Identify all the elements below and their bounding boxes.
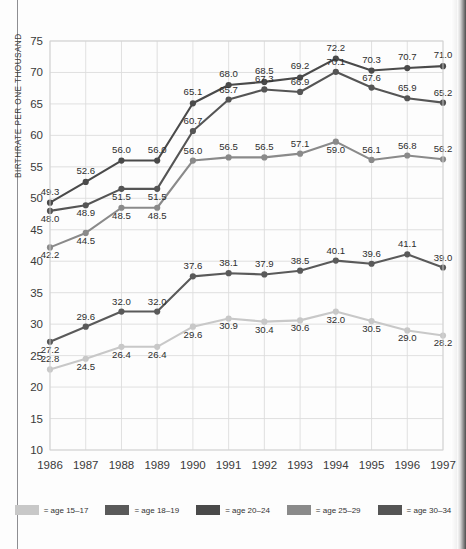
- data-point-label: 24.5: [76, 361, 95, 372]
- data-point: [226, 270, 232, 276]
- legend-item: = age 18–19: [105, 505, 179, 515]
- data-point-label: 48.5: [148, 210, 167, 221]
- data-point-label: 56.5: [219, 141, 238, 152]
- legend-item: = age 15–17: [15, 505, 89, 515]
- data-point-label: 59.0: [326, 144, 345, 155]
- data-point-label: 67.6: [362, 72, 381, 83]
- data-point-label: 48.9: [76, 207, 95, 218]
- data-point-label: 41.1: [398, 238, 417, 249]
- series-line: [50, 312, 443, 370]
- data-point-label: 70.3: [362, 54, 381, 65]
- data-point: [190, 100, 196, 106]
- data-point-label: 48.5: [112, 210, 131, 221]
- data-point-label: 30.9: [219, 320, 238, 331]
- y-axis-tick-label: 60: [30, 129, 43, 141]
- data-point: [261, 86, 267, 92]
- x-axis-tick-label: 1997: [430, 459, 456, 471]
- data-point-label: 38.5: [291, 255, 310, 266]
- data-point-label: 66.9: [291, 76, 310, 87]
- data-point: [297, 151, 303, 157]
- y-axis-tick-label: 75: [30, 35, 43, 47]
- data-point-label: 65.9: [398, 82, 417, 93]
- data-point: [261, 154, 267, 160]
- legend-item: = age 20–24: [196, 505, 270, 515]
- plot-frame: [50, 41, 443, 450]
- data-point: [404, 251, 410, 257]
- data-point-label: 38.1: [219, 257, 238, 268]
- legend-swatch: [378, 505, 402, 515]
- y-axis-tick-label: 45: [30, 224, 43, 236]
- data-point: [297, 268, 303, 274]
- y-axis-tick-label: 35: [30, 287, 43, 299]
- y-axis-tick-label: 10: [30, 444, 43, 456]
- data-point: [83, 179, 89, 185]
- data-point-label: 51.5: [112, 191, 131, 202]
- data-point: [190, 157, 196, 163]
- data-point-label: 29.6: [184, 329, 203, 340]
- data-point: [333, 69, 339, 75]
- data-point: [154, 308, 160, 314]
- data-point: [333, 258, 339, 264]
- data-point-label: 56.5: [255, 141, 274, 152]
- legend-label: = age 15–17: [44, 506, 89, 515]
- legend-swatch: [15, 505, 39, 515]
- data-point-label: 44.5: [76, 235, 95, 246]
- data-point-label: 69.2: [291, 60, 310, 71]
- legend-swatch: [287, 505, 311, 515]
- y-axis-tick-label: 65: [30, 98, 43, 110]
- x-axis-tick-label: 1987: [73, 459, 99, 471]
- series-line: [50, 59, 443, 203]
- data-point: [404, 95, 410, 101]
- data-point-label: 51.5: [148, 191, 167, 202]
- chart-svg: 1015202530354045505560657075198619871988…: [0, 0, 466, 549]
- data-point-label: 57.1: [291, 138, 310, 149]
- data-point-label: 52.6: [76, 165, 95, 176]
- data-point: [226, 96, 232, 102]
- x-axis-tick-label: 1986: [37, 459, 63, 471]
- data-point: [226, 154, 232, 160]
- data-point-label: 70.7: [398, 51, 417, 62]
- data-point-label: 39.6: [362, 248, 381, 259]
- data-point: [404, 65, 410, 71]
- legend-swatch: [105, 505, 129, 515]
- data-point: [83, 324, 89, 330]
- data-point-label: 29.0: [398, 332, 417, 343]
- data-point-label: 67.3: [255, 73, 274, 84]
- data-point-label: 30.6: [291, 322, 310, 333]
- x-axis-tick-label: 1996: [394, 459, 420, 471]
- y-axis-tick-label: 15: [30, 413, 43, 425]
- x-axis-tick-label: 1994: [323, 459, 349, 471]
- data-point-label: 70.1: [326, 56, 345, 67]
- y-axis-tick-label: 70: [30, 66, 43, 78]
- data-point: [368, 261, 374, 267]
- legend-label: = age 20–24: [225, 506, 270, 515]
- data-point: [297, 89, 303, 95]
- data-point-label: 68.0: [219, 68, 238, 79]
- data-point-label: 32.0: [326, 314, 345, 325]
- data-point: [368, 84, 374, 90]
- legend-label: = age 18–19: [134, 506, 179, 515]
- data-point-label: 56.0: [112, 144, 131, 155]
- legend-label: = age 30–34: [407, 506, 452, 515]
- data-point-label: 32.0: [148, 296, 167, 307]
- data-point-label: 56.0: [148, 144, 167, 155]
- data-point: [190, 273, 196, 279]
- data-point-label: 60.7: [184, 115, 203, 126]
- legend-item: = age 25–29: [287, 505, 361, 515]
- x-axis-tick-label: 1991: [216, 459, 242, 471]
- data-point-label: 30.5: [362, 323, 381, 334]
- data-point: [154, 157, 160, 163]
- data-point: [190, 128, 196, 134]
- x-axis-tick-label: 1995: [359, 459, 385, 471]
- data-point-label: 56.8: [398, 140, 417, 151]
- data-point-label: 56.1: [362, 144, 381, 155]
- data-point: [118, 157, 124, 163]
- data-point-label: 40.1: [326, 245, 345, 256]
- x-axis-tick-label: 1993: [287, 459, 313, 471]
- series-line: [50, 254, 443, 341]
- data-point-label: 26.4: [112, 349, 131, 360]
- legend-label: = age 25–29: [316, 506, 361, 515]
- chart-legend: = age 15–17= age 18–19= age 20–24= age 2…: [0, 500, 466, 520]
- data-point: [261, 271, 267, 277]
- data-point: [118, 308, 124, 314]
